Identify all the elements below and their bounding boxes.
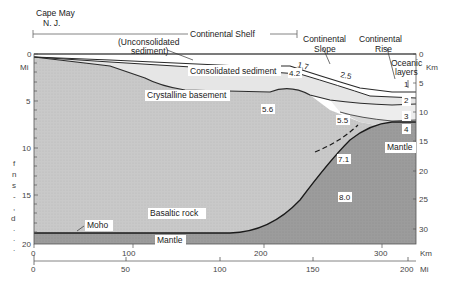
crystalline-basement-label: Crystalline basement: [147, 90, 227, 100]
basaltic-rock-label: Basaltic rock: [150, 208, 199, 218]
right-tick-5: 5: [419, 79, 424, 88]
left-tick-15: 15: [22, 191, 31, 200]
svg-text:n: n: [12, 170, 16, 179]
bottom-mi-tick-150: 150: [306, 265, 320, 274]
location-label: Cape May: [36, 8, 75, 18]
continental-shelf-label: Continental Shelf: [190, 29, 255, 39]
right-tick-25: 25: [419, 195, 428, 204]
moho-label: Moho: [87, 220, 109, 230]
left-tick-5: 5: [26, 97, 31, 106]
cross-section-diagram: Cape May N. J. Continental Shelf Contine…: [0, 0, 463, 289]
oceanic-layer-1-label: 1: [404, 80, 409, 89]
svg-text:.: .: [13, 244, 15, 253]
continental-slope-label: Continental: [303, 34, 346, 44]
consolidated-sediment-label: Consolidated sediment: [190, 66, 277, 76]
velocity-5-6: 5.6: [262, 105, 274, 114]
bottom-mi-tick-100: 100: [213, 265, 227, 274]
bottom-km-tick-300: 300: [374, 249, 388, 258]
right-axis-unit: Km: [426, 63, 438, 72]
velocity-4-2: 4.2: [289, 69, 301, 78]
svg-text:.: .: [13, 234, 15, 243]
velocity-5-5: 5.5: [337, 116, 349, 125]
continental-rise-label-2: Rise: [375, 44, 392, 54]
bottom-mi-tick-0: 0: [31, 265, 36, 274]
bottom-km-tick-100: 100: [122, 249, 136, 258]
mantle-left-label: Mantle: [157, 235, 183, 245]
oceanic-layer-2-label: 2: [404, 96, 409, 105]
velocity-8-0: 8.0: [339, 193, 351, 202]
left-tick-20: 20: [22, 240, 31, 249]
right-tick-20: 20: [419, 167, 428, 176]
oceanic-layer-4-label: 4: [404, 125, 409, 134]
continental-slope-label-2: Slope: [314, 44, 336, 54]
bottom-km-unit: Km: [420, 249, 432, 258]
continental-rise-label: Continental: [359, 34, 402, 44]
svg-text:.: .: [13, 224, 15, 233]
svg-text:f: f: [13, 159, 16, 168]
right-tick-30: 30: [419, 225, 428, 234]
svg-text:s: s: [12, 181, 16, 190]
bottom-km-tick-200: 200: [254, 249, 268, 258]
bottom-mi-unit: Mi: [420, 265, 429, 274]
left-tick-0: 0: [27, 50, 32, 59]
unconsolidated-sediment-label-2: sediment): [131, 46, 168, 56]
bottom-mi-tick-200: 200: [400, 265, 414, 274]
oceanic-layer-3-label: 3: [404, 112, 409, 121]
location-label-2: N. J.: [43, 18, 60, 28]
cropped-caption-fragments: f n s - , d . . .: [11, 159, 16, 253]
oceanic-layers-label-2: layers: [395, 67, 418, 77]
mantle-right-label: Mantle: [387, 142, 413, 152]
left-tick-10: 10: [22, 144, 31, 153]
left-axis-unit: Mi: [20, 63, 29, 72]
right-tick-0: 0: [419, 50, 424, 59]
right-tick-10: 10: [419, 108, 428, 117]
svg-text:,: ,: [13, 203, 15, 212]
velocity-7-1: 7.1: [338, 155, 350, 164]
svg-text:-: -: [13, 192, 16, 201]
right-tick-15: 15: [419, 137, 428, 146]
svg-text:d: d: [11, 214, 15, 223]
bottom-km-tick-0: 0: [31, 249, 36, 258]
bottom-mi-tick-50: 50: [121, 265, 130, 274]
